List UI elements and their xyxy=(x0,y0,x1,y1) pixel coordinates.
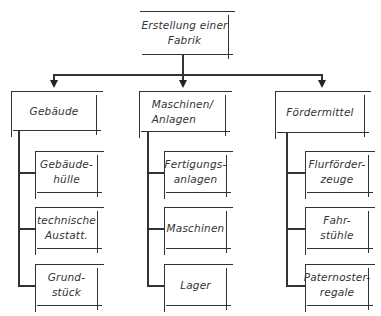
child-node: Paternoster- regale xyxy=(305,264,369,306)
category-foerdermittel: Fördermittel xyxy=(275,91,365,133)
child-node: technische Austatt. xyxy=(35,207,98,249)
branch xyxy=(286,172,305,174)
root-label: Erstellung einer Fabrik xyxy=(141,18,227,48)
child-node: Fahr- stühle xyxy=(305,207,369,249)
border xyxy=(142,54,233,55)
child-label: Paternoster- regale xyxy=(304,270,371,300)
child-node: Maschinen xyxy=(164,207,227,249)
border xyxy=(140,11,235,12)
branch xyxy=(147,172,164,174)
child-label: Flurförder- zeuge xyxy=(308,157,365,187)
branch xyxy=(18,228,35,230)
child-label: technische Austatt. xyxy=(37,213,96,243)
border xyxy=(228,15,229,59)
category-label: Gebäude xyxy=(30,104,79,119)
category-maschinen-anlagen: Maschinen/ Anlagen xyxy=(139,91,226,132)
horizontal-bus xyxy=(53,74,322,76)
trunk-gebaeude xyxy=(18,131,20,286)
branch xyxy=(286,228,305,230)
arrow-down-icon xyxy=(50,80,58,88)
branch xyxy=(18,172,35,174)
child-label: Grund- stück xyxy=(48,270,85,300)
child-label: Maschinen xyxy=(167,221,225,236)
branch xyxy=(286,285,305,287)
arrow-down-icon xyxy=(318,80,326,88)
category-gebaeude: Gebäude xyxy=(11,91,97,131)
child-label: Fahr- stühle xyxy=(320,213,353,243)
child-node: Gebäude- hülle xyxy=(35,151,98,193)
child-node: Flurförder- zeuge xyxy=(305,151,369,193)
trunk-maschinen xyxy=(147,132,149,286)
root-node: Erstellung einer Fabrik xyxy=(140,11,229,55)
category-label: Fördermittel xyxy=(286,105,353,120)
child-node: Fertigungs- anlagen xyxy=(164,151,227,193)
branch xyxy=(18,285,35,287)
child-label: Lager xyxy=(180,278,211,293)
trunk-foerdermittel xyxy=(286,133,288,286)
category-label: Maschinen/ Anlagen xyxy=(152,97,214,127)
child-label: Gebäude- hülle xyxy=(40,157,93,187)
branch xyxy=(147,285,164,287)
child-label: Fertigungs- anlagen xyxy=(165,157,227,187)
child-node: Grund- stück xyxy=(35,264,98,306)
branch xyxy=(147,228,164,230)
child-node: Lager xyxy=(164,264,227,306)
root-stem xyxy=(182,55,184,74)
arrow-down-icon xyxy=(179,80,187,88)
